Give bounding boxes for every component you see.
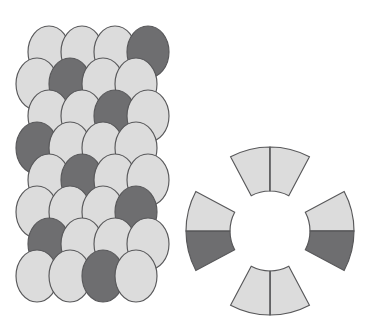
figure-canvas <box>0 0 366 327</box>
figure-root <box>0 0 366 327</box>
egg-light <box>115 250 157 302</box>
egg-tessellation-layer <box>16 26 169 302</box>
